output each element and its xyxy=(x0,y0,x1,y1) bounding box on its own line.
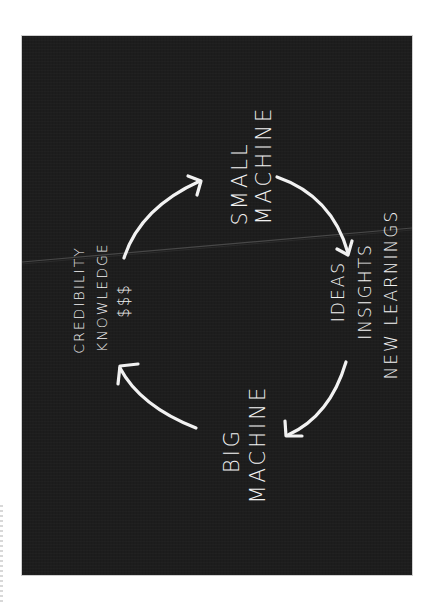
arrow-returns-to-small-machine xyxy=(124,176,201,258)
node-small-machine-line2: MACHINE xyxy=(254,121,275,225)
node-returns-knowledge: KNOWLEDGE xyxy=(95,248,109,352)
node-outputs-new-learnings: NEW LEARNINGS xyxy=(383,230,400,380)
node-outputs-ideas: IDEAS xyxy=(330,254,347,330)
arrow-big-machine-to-returns xyxy=(118,364,196,428)
arrow-small-machine-to-ideas xyxy=(277,177,352,255)
node-big-machine-line1: BIG xyxy=(222,424,243,478)
node-outputs-insights: INSIGHTS xyxy=(357,241,374,343)
node-returns-credibility: CREDIBILITY xyxy=(72,239,86,361)
page: SMALL MACHINE IDEAS INSIGHTS NEW LEARNIN… xyxy=(0,0,439,611)
node-small-machine-line1: SMALL xyxy=(230,146,251,226)
node-big-machine-line2: MACHINE xyxy=(248,400,269,504)
arrow-ideas-to-big-machine xyxy=(285,362,346,436)
node-returns-money: $$$ xyxy=(117,275,132,327)
